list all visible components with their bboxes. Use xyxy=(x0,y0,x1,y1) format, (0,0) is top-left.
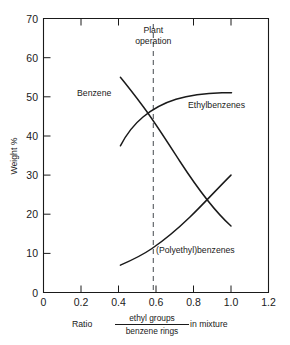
y-tick-label-10: 10 xyxy=(26,247,38,259)
x-tick-label-1-2: 1.2 xyxy=(261,296,276,308)
y-tick-label-0: 0 xyxy=(32,287,38,299)
x-tick-label-1-0: 1.0 xyxy=(224,296,239,308)
chart-figure: 0 10 20 30 40 50 60 70 0 0.2 0.4 0.6 xyxy=(0,0,290,345)
y-axis-title: Weight % xyxy=(9,137,19,174)
y-tick-label-70: 70 xyxy=(26,13,38,25)
x-axis-title: Ratio ethyl groups benzene rings in mixt… xyxy=(72,313,228,336)
x-axis-title-numerator: ethyl groups xyxy=(129,313,175,323)
x-axis-title-suffix: in mixture xyxy=(190,319,228,329)
y-tick-label-50: 50 xyxy=(26,91,38,103)
series-label-ethylbenzenes: Ethylbenzenes xyxy=(188,100,246,110)
x-axis-title-prefix: Ratio xyxy=(72,319,92,329)
x-axis-title-denominator: benzene rings xyxy=(126,326,179,336)
y-axis-tick-labels: 0 10 20 30 40 50 60 70 xyxy=(26,13,38,299)
x-tick-label-0: 0 xyxy=(41,296,47,308)
x-tick-label-0-6: 0.6 xyxy=(149,296,164,308)
y-axis-ticks xyxy=(44,19,51,293)
x-tick-label-0-8: 0.8 xyxy=(186,296,201,308)
y-tick-label-60: 60 xyxy=(26,52,38,64)
series-label-polyethylbenzenes: (Polyethyl)benzenes xyxy=(156,245,235,255)
series-label-benzene: Benzene xyxy=(77,88,111,98)
x-tick-label-0-2: 0.2 xyxy=(74,296,89,308)
y-tick-label-20: 20 xyxy=(26,208,38,220)
chart-canvas: 0 10 20 30 40 50 60 70 0 0.2 0.4 0.6 xyxy=(0,0,290,345)
y-tick-label-40: 40 xyxy=(26,130,38,142)
y-tick-label-30: 30 xyxy=(26,169,38,181)
plant-operation-label-line1: Plant xyxy=(143,25,163,35)
x-tick-label-0-4: 0.4 xyxy=(111,296,126,308)
x-axis-tick-labels: 0 0.2 0.4 0.6 0.8 1.0 1.2 xyxy=(41,296,276,308)
plant-operation-label-line2: operation xyxy=(135,36,171,46)
